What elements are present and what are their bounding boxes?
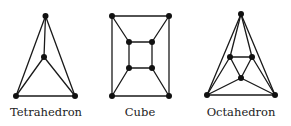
- graph-vertex: [272, 92, 278, 98]
- graph-vertex: [249, 54, 255, 60]
- graph-edge: [152, 16, 169, 42]
- graph-vertex: [109, 13, 115, 19]
- tetrahedron-label: Tetrahedron: [10, 105, 83, 119]
- graph-vertex: [72, 93, 78, 99]
- graph-edge: [46, 16, 76, 96]
- graph-edge: [207, 14, 241, 95]
- graph-vertex: [41, 54, 47, 60]
- graph-edge: [241, 57, 252, 78]
- graph-edge: [112, 68, 129, 96]
- graph-edge: [16, 57, 44, 96]
- platonic-graphs-figure: Tetrahedron Cube Octahedron: [0, 0, 291, 126]
- graph-vertex: [13, 93, 19, 99]
- graph-vertex: [149, 65, 155, 71]
- graph-edge: [230, 57, 241, 78]
- graph-edge: [241, 14, 275, 95]
- octahedron-label: Octahedron: [207, 105, 276, 119]
- octahedron-graph: [204, 11, 278, 98]
- graph-vertex: [204, 92, 210, 98]
- graph-edge: [112, 16, 129, 42]
- graph-edge: [44, 16, 46, 57]
- graph-vertex: [149, 39, 155, 45]
- graph-vertex: [126, 65, 132, 71]
- graph-edge: [152, 68, 169, 96]
- graph-vertex: [109, 93, 115, 99]
- graph-edge: [44, 57, 75, 96]
- graph-vertex: [43, 13, 49, 19]
- cube-label: Cube: [125, 105, 156, 119]
- cube-graph: [109, 13, 172, 99]
- graph-vertex: [238, 11, 244, 17]
- tetrahedron-graph: [13, 13, 78, 99]
- graph-edge: [16, 16, 46, 96]
- graph-vertex: [166, 13, 172, 19]
- graph-vertex: [126, 39, 132, 45]
- graph-vertex: [238, 75, 244, 81]
- graph-vertex: [227, 54, 233, 60]
- graph-vertex: [166, 93, 172, 99]
